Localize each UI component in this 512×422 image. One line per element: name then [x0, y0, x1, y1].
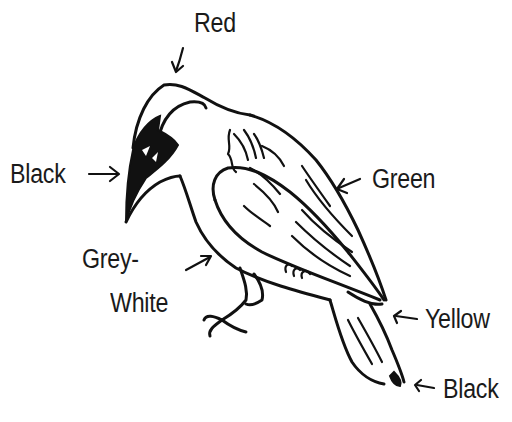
bird-body [180, 115, 386, 300]
arrow-icon-tail [415, 380, 434, 391]
bird-legs [204, 268, 263, 336]
label-crown-color: Red [194, 10, 236, 37]
label-belly-color-line2: White [110, 290, 168, 317]
label-belly-color-line1: Grey- [82, 246, 139, 273]
label-rump-color: Yellow [425, 306, 490, 333]
label-face-color: Black [10, 161, 65, 188]
arrow-icon-belly [186, 256, 211, 270]
arrow-icon-crown [172, 48, 183, 72]
label-wing-color: Green [372, 166, 435, 193]
label-tail-color: Black [443, 376, 498, 403]
bird-illustration [0, 0, 512, 422]
arrow-icon-rump [394, 311, 417, 323]
arrow-icon-face [89, 167, 119, 181]
bird-tail [330, 292, 404, 386]
bird-diagram: Red Black Green Grey- White Yellow Black [0, 0, 512, 422]
arrow-icon-wing [337, 179, 360, 193]
